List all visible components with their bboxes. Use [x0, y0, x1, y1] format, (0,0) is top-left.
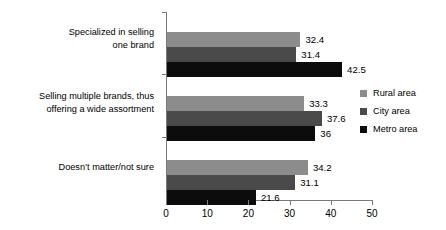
bar-rural-group-0	[167, 32, 300, 47]
bar-value-rural-group-1: 33.3	[309, 98, 328, 110]
x-axis-tick-40	[331, 200, 332, 205]
bar-value-metro-group-0: 42.5	[347, 64, 366, 76]
bar-rural-group-2	[167, 160, 308, 175]
horizontal-bar-chart: Specialized in selling one brand Selling…	[0, 0, 446, 230]
category-label-1-line-0: Selling multiple brands, thus	[39, 90, 154, 103]
legend-label-rural: Rural area	[373, 87, 416, 99]
bar-value-rural-group-2: 34.2	[313, 162, 332, 174]
x-axis-tick-50	[372, 200, 373, 205]
chart-legend: Rural area City area Metro area	[360, 84, 417, 138]
x-axis-tick-label-30: 30	[275, 208, 305, 220]
legend-item-rural[interactable]: Rural area	[360, 84, 417, 102]
bar-metro-group-2	[167, 190, 256, 205]
x-axis-tick-label-0: 0	[151, 208, 181, 220]
bar-city-group-0	[167, 47, 296, 62]
bar-value-city-group-2: 31.1	[300, 177, 319, 189]
plot-area: 32.431.442.533.337.63634.231.121.6 01020…	[166, 12, 377, 200]
category-label-0: Specialized in selling one brand	[69, 26, 154, 51]
bar-city-group-2	[167, 175, 295, 190]
bar-value-city-group-1: 37.6	[327, 113, 346, 125]
category-label-1: Selling multiple brands, thus offering a…	[39, 90, 154, 115]
category-label-2: Doesn’t matter/not sure	[59, 161, 155, 174]
legend-swatch-rural-icon	[360, 90, 367, 97]
legend-swatch-city-icon	[360, 108, 367, 115]
legend-label-metro: Metro area	[373, 123, 417, 135]
bar-metro-group-1	[167, 126, 315, 141]
x-axis-tick-20	[248, 200, 249, 205]
legend-item-metro[interactable]: Metro area	[360, 120, 417, 138]
y-axis-tick-0	[162, 12, 167, 13]
x-axis-tick-30	[290, 200, 291, 205]
x-axis-tick-0	[166, 200, 167, 205]
category-label-1-line-1: offering a wide assortment	[39, 103, 154, 116]
legend-label-city: City area	[373, 105, 410, 117]
bar-value-metro-group-2: 21.6	[261, 192, 280, 204]
x-axis-tick-label-20: 20	[233, 208, 263, 220]
bar-rural-group-1	[167, 96, 304, 111]
category-label-2-line-0: Doesn’t matter/not sure	[59, 161, 155, 174]
bar-city-group-1	[167, 111, 322, 126]
x-axis-tick-label-50: 50	[357, 208, 387, 220]
bar-value-city-group-0: 31.4	[301, 49, 320, 61]
bar-metro-group-0	[167, 62, 342, 77]
x-axis-tick-label-40: 40	[316, 208, 346, 220]
category-axis-labels: Specialized in selling one brand Selling…	[0, 0, 162, 200]
category-label-0-line-0: Specialized in selling	[69, 26, 154, 39]
legend-swatch-metro-icon	[360, 126, 367, 133]
legend-item-city[interactable]: City area	[360, 102, 417, 120]
bar-value-metro-group-1: 36	[320, 128, 331, 140]
category-label-0-line-1: one brand	[69, 39, 154, 52]
x-axis-tick-label-10: 10	[192, 208, 222, 220]
x-axis-tick-10	[207, 200, 208, 205]
bar-value-rural-group-0: 32.4	[305, 34, 324, 46]
